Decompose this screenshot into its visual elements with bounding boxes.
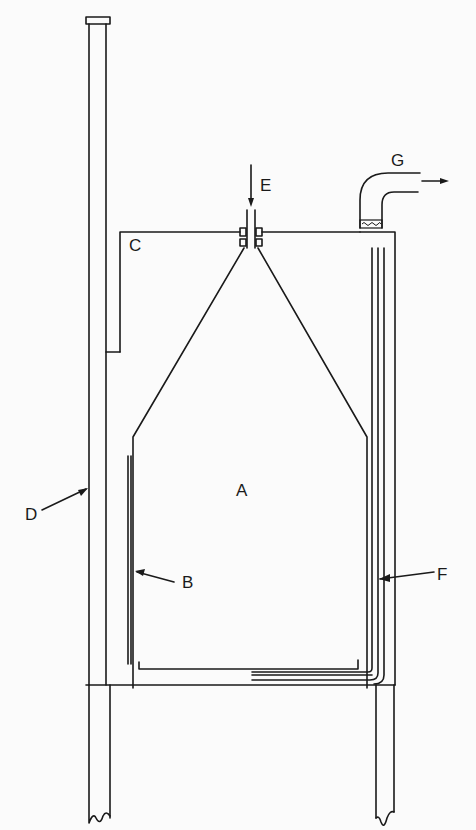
label-b: B bbox=[182, 574, 193, 591]
top-cover-c bbox=[120, 232, 360, 352]
leader-lines bbox=[42, 488, 434, 582]
standpipe-d bbox=[86, 17, 120, 685]
apparatus-diagram bbox=[0, 0, 476, 830]
label-c: C bbox=[129, 237, 141, 254]
label-e: E bbox=[260, 177, 271, 194]
conical-hood bbox=[133, 248, 367, 688]
exit-pipe-g bbox=[360, 173, 449, 228]
label-d: D bbox=[25, 506, 37, 523]
label-g: G bbox=[391, 152, 404, 169]
inlet-tube-e bbox=[240, 165, 262, 248]
label-f: F bbox=[437, 566, 447, 583]
outlet-tube-f bbox=[252, 248, 384, 684]
label-a: A bbox=[236, 482, 247, 499]
